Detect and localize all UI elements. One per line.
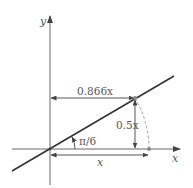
diagram-canvas: y x 0.866x 0.5x π/6 x [0, 0, 193, 188]
angle-label: π/6 [79, 135, 96, 147]
point-on-line [133, 96, 137, 100]
x-axis-label: x [172, 152, 179, 165]
angle-arc [72, 137, 75, 149]
origin-point [49, 148, 52, 151]
y-axis-label: y [39, 15, 47, 28]
point-on-x-axis [147, 147, 151, 151]
base-length-label: x [97, 156, 104, 169]
vertical-distance-label: 0.5x [116, 119, 139, 131]
horizontal-distance-label: 0.866x [77, 85, 113, 97]
